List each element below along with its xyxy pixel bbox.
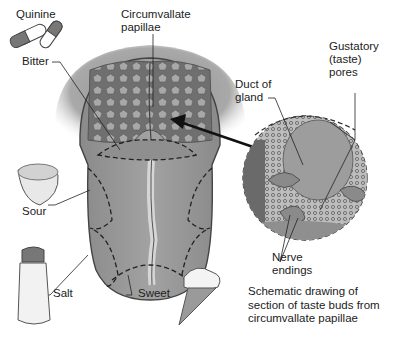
label-duct-2: gland	[235, 91, 263, 104]
lemon-icon	[18, 164, 58, 205]
caption-line-1: Schematic drawing of	[248, 285, 380, 299]
label-quinine: Quinine	[16, 8, 56, 21]
label-gustatory-2: (taste)	[329, 53, 362, 66]
label-duct-1: Duct of	[235, 78, 271, 91]
label-sweet: Sweet	[138, 287, 170, 300]
label-gustatory-1: Gustatory	[329, 40, 379, 53]
label-salt: Salt	[53, 287, 73, 300]
label-circumvallate-2: papillae	[121, 21, 161, 34]
caption: Schematic drawing of section of taste bu…	[248, 285, 380, 326]
caption-line-2: section of taste buds from	[248, 299, 380, 313]
ice-cream-cone-icon	[179, 268, 220, 325]
label-circumvallate-1: Circumvallate	[121, 8, 191, 21]
caption-line-3: circumvallate papillae	[248, 312, 380, 326]
salt-shaker-icon	[18, 247, 50, 324]
label-sour: Sour	[22, 205, 46, 218]
tongue	[80, 58, 220, 300]
label-nerve-2: endings	[272, 264, 312, 277]
label-nerve-1: Nerve	[272, 251, 303, 264]
taste-bud-section	[243, 116, 367, 240]
label-gustatory-3: pores	[329, 66, 358, 79]
label-bitter: Bitter	[22, 55, 49, 68]
taste-diagram: Quinine Circumvallate papillae Bitter Gu…	[0, 0, 393, 340]
quinine-capsules-icon	[8, 19, 64, 50]
